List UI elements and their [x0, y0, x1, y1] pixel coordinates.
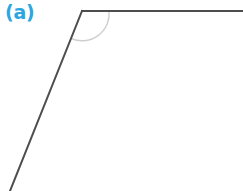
figure-background: [0, 0, 243, 191]
panel-label: (a): [5, 1, 34, 23]
geometry-diagram: [0, 0, 243, 191]
geometry-figure-panel: (a): [0, 0, 243, 191]
